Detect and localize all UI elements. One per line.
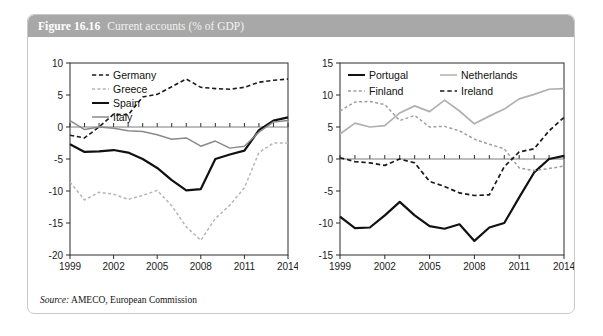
legend-label-finland: Finland <box>369 85 404 97</box>
series-germany <box>70 79 288 138</box>
x-tick-label: 1999 <box>329 261 352 272</box>
series-spain <box>70 117 288 190</box>
y-tick-label: -20 <box>49 250 64 261</box>
y-tick-label: 5 <box>57 90 63 101</box>
legend-label-spain: Spain <box>113 97 140 109</box>
x-tick-label: 2014 <box>553 261 574 272</box>
chart-svg-left: 1050-5-10-15-20199920022005200820112014G… <box>30 37 298 285</box>
source-text: AMECO, European Commission <box>71 295 197 305</box>
x-tick-label: 2011 <box>508 261 530 272</box>
series-greece <box>70 143 288 240</box>
figure-number: Figure 16.16 <box>38 20 100 32</box>
chart-svg-right: 151050-5-10-15199920022005200820112014Po… <box>300 37 574 285</box>
y-tick-label: -15 <box>49 218 64 229</box>
charts-area: 1050-5-10-15-20199920022005200820112014G… <box>28 37 574 285</box>
x-tick-label: 2014 <box>277 261 298 272</box>
plot-frame <box>70 63 288 255</box>
y-tick-label: 0 <box>57 122 63 133</box>
x-tick-label: 2002 <box>374 261 397 272</box>
series-portugal <box>340 156 564 241</box>
figure-page: Figure 16.16 Current accounts (% of GDP)… <box>0 0 603 336</box>
y-tick-label: 15 <box>322 58 334 69</box>
legend-label-italy: Italy <box>113 111 133 123</box>
legend-label-germany: Germany <box>113 69 157 81</box>
x-tick-label: 2011 <box>234 261 256 272</box>
y-tick-label: -10 <box>319 218 334 229</box>
y-tick-label: 10 <box>322 90 334 101</box>
figure-caption: Current accounts (% of GDP) <box>107 20 244 32</box>
y-tick-label: -15 <box>319 250 334 261</box>
legend-label-ireland: Ireland <box>461 85 493 97</box>
x-tick-label: 2008 <box>190 261 213 272</box>
x-tick-label: 2002 <box>102 261 125 272</box>
y-tick-label: 5 <box>327 122 333 133</box>
source-label: Source: <box>40 295 69 305</box>
series-finland <box>340 101 564 170</box>
chart-left: 1050-5-10-15-20199920022005200820112014G… <box>30 37 298 285</box>
y-tick-label: 10 <box>52 58 64 69</box>
chart-right: 151050-5-10-15199920022005200820112014Po… <box>300 37 574 285</box>
x-tick-label: 1999 <box>59 261 82 272</box>
x-tick-label: 2005 <box>146 261 169 272</box>
legend-label-greece: Greece <box>113 83 148 95</box>
x-tick-label: 2008 <box>463 261 486 272</box>
figure-card: Figure 16.16 Current accounts (% of GDP)… <box>27 14 575 314</box>
legend-label-portugal: Portugal <box>369 69 408 81</box>
source-note: Source: AMECO, European Commission <box>40 295 197 305</box>
legend-label-netherlands: Netherlands <box>461 69 518 81</box>
y-tick-label: 0 <box>327 154 333 165</box>
y-tick-label: -5 <box>54 154 63 165</box>
x-tick-label: 2005 <box>418 261 441 272</box>
figure-header: Figure 16.16 Current accounts (% of GDP) <box>28 15 574 37</box>
y-tick-label: -5 <box>324 186 333 197</box>
y-tick-label: -10 <box>49 186 64 197</box>
